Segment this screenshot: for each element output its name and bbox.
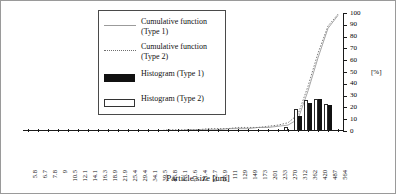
x-axis-tick	[288, 129, 289, 132]
legend-label: Histogram (Type 1)	[137, 69, 204, 79]
x-axis-tick	[318, 129, 319, 132]
histogram-bar-type1	[308, 103, 312, 131]
y-axis-tick	[343, 119, 347, 120]
y-axis-tick-label: 10	[350, 116, 357, 123]
x-axis-tick	[238, 129, 239, 132]
x-axis-tick	[228, 129, 229, 132]
x-axis-tick-labels: 5.86.77.8910.512.114.116.318.921.925.429…	[23, 132, 344, 172]
x-axis-tick	[88, 129, 89, 132]
y-axis-tick-label: 80	[350, 33, 357, 40]
y-axis-tick	[343, 60, 347, 61]
x-axis-line	[23, 130, 344, 131]
legend-label: Cumulative function (Type 2)	[137, 42, 207, 61]
dotted-line-key-icon	[103, 46, 137, 55]
x-axis-tick	[188, 129, 189, 132]
x-axis-tick	[38, 129, 39, 132]
x-axis-tick	[338, 129, 339, 132]
legend-item-cumulative-type1: Cumulative function (Type 1)	[103, 17, 223, 36]
y-axis-tick	[343, 107, 347, 108]
x-axis-tick	[198, 129, 199, 132]
legend-item-cumulative-type2: Cumulative function (Type 2)	[103, 42, 223, 61]
y-axis-tick-label: 0	[350, 128, 354, 135]
y-axis-tick-label: 100	[350, 10, 361, 17]
legend-label: Histogram (Type 2)	[137, 94, 204, 104]
x-axis-tick	[328, 129, 329, 132]
x-axis-tick	[298, 129, 299, 132]
x-axis-tick	[138, 129, 139, 132]
y-axis-tick-label: 50	[350, 69, 357, 76]
x-axis-tick	[248, 129, 249, 132]
chart-legend: Cumulative function (Type 1) Cumulative …	[98, 10, 226, 115]
white-box-key-icon	[103, 98, 137, 107]
y-axis-tick	[343, 131, 347, 132]
y-axis-tick-label: 90	[350, 21, 357, 28]
x-axis-tick	[258, 129, 259, 132]
black-box-key-icon	[103, 73, 137, 82]
x-axis-tick	[168, 129, 169, 132]
x-axis-tick	[58, 129, 59, 132]
y-axis-tick	[343, 84, 347, 85]
y-axis-tick-label: 70	[350, 45, 357, 52]
x-axis-tick	[218, 129, 219, 132]
legend-label: Cumulative function (Type 1)	[137, 17, 207, 36]
y-axis-tick-label: 30	[350, 92, 357, 99]
x-axis-tick	[278, 129, 279, 132]
x-axis-tick	[148, 129, 149, 132]
y-axis-tick	[343, 48, 347, 49]
y-axis-tick	[343, 96, 347, 97]
x-axis-tick	[98, 129, 99, 132]
x-axis-tick	[158, 129, 159, 132]
y-axis-tick	[343, 25, 347, 26]
histogram-bar-type1	[318, 99, 322, 131]
x-axis-tick	[28, 129, 29, 132]
y-axis-unit-label: [%]	[371, 69, 382, 76]
x-axis-tick	[178, 129, 179, 132]
x-axis-tick	[68, 129, 69, 132]
y-axis-tick	[343, 37, 347, 38]
y-axis-tick-label: 40	[350, 80, 357, 87]
y-axis-tick	[343, 13, 347, 14]
y-axis-tick	[343, 72, 347, 73]
x-axis-tick	[78, 129, 79, 132]
x-axis-tick	[308, 129, 309, 132]
y-axis-tick-label: 20	[350, 104, 357, 111]
histogram-bar-type1	[328, 105, 332, 131]
x-axis-tick	[118, 129, 119, 132]
legend-item-histogram-type2: Histogram (Type 2)	[103, 94, 223, 107]
x-axis-tick	[208, 129, 209, 132]
x-axis-title: Particle size [um]	[1, 173, 395, 184]
x-axis-tick	[108, 129, 109, 132]
legend-item-histogram-type1: Histogram (Type 1)	[103, 69, 223, 82]
chart-figure: [%] 5.86.77.8910.512.114.116.318.921.925…	[0, 0, 396, 194]
solid-line-key-icon	[103, 21, 137, 30]
y-axis-tick-label: 60	[350, 57, 357, 64]
x-axis-tick	[128, 129, 129, 132]
x-axis-tick	[268, 129, 269, 132]
x-axis-tick	[48, 129, 49, 132]
